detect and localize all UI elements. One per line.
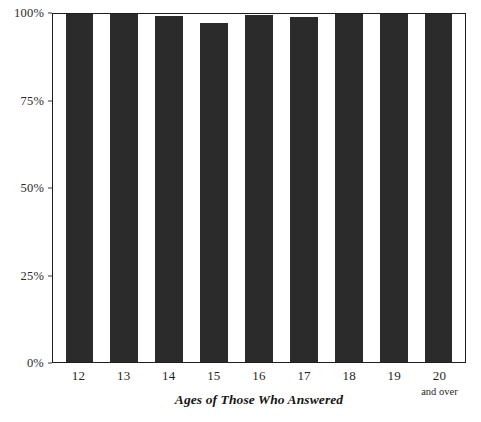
bars-container [53,14,465,362]
bar-slot [371,14,416,362]
bar-slot [147,14,192,362]
x-tick-label: 16 [236,368,281,384]
bar [290,17,318,362]
bar [200,23,228,362]
y-tick-label: 75% [20,93,44,108]
x-tick-label: 14 [146,368,191,384]
y-tick-label: 25% [20,268,44,283]
x-tick-label: 12 [56,368,101,384]
bar-slot [102,14,147,362]
bar [245,15,273,362]
y-tick-label: 0% [27,356,44,371]
bar-slot [57,14,102,362]
bar-slot [416,14,461,362]
bar-slot [237,14,282,362]
bar [335,14,363,362]
bar [155,16,183,362]
y-tick-label: 50% [20,181,44,196]
x-axis: 121314151617181920and over Ages of Those… [52,364,466,422]
bar-slot [326,14,371,362]
x-tick-label: 19 [372,368,417,384]
bar-slot [281,14,326,362]
x-tick-label: 18 [327,368,372,384]
bar [110,14,138,362]
plot-area [52,13,466,363]
y-axis: 0%25%50%75%100% [0,0,52,422]
x-tick-label: 13 [101,368,146,384]
x-axis-title: Ages of Those Who Answered [52,392,466,408]
x-tick-label: 20 [417,368,462,384]
bar-slot [192,14,237,362]
y-tick-label: 100% [14,6,44,21]
x-tick-label: 15 [191,368,236,384]
x-tick-label: 17 [282,368,327,384]
bar [425,14,453,362]
bar-chart: 0%25%50%75%100% 121314151617181920and ov… [0,0,481,422]
bar [380,14,408,362]
bar [66,14,94,362]
